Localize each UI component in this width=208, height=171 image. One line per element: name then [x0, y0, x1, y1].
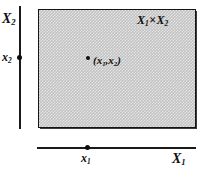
product-set-label: X1×X2	[137, 14, 168, 26]
product-label-first-subscript: 1	[145, 19, 149, 28]
vertical-axis-tick-label: x2	[2, 51, 12, 63]
horizontal-axis-point-marker	[85, 145, 90, 150]
vertical-axis-label: X2	[2, 12, 16, 26]
vertical-axis-name: X	[2, 11, 11, 26]
product-set-region	[38, 9, 196, 128]
product-label-second-subscript: 2	[165, 19, 169, 28]
horizontal-axis-tick-label: x1	[81, 152, 91, 164]
horizontal-axis-name: X	[172, 151, 181, 166]
vertical-axis-point-marker	[17, 55, 22, 60]
vertical-axis-line	[19, 6, 21, 129]
multiplication-icon: ×	[149, 13, 157, 27]
horizontal-axis-subscript: 1	[181, 157, 185, 167]
pair-first-subscript: 1	[102, 60, 105, 67]
product-label-second-set: X	[157, 13, 165, 27]
ordered-pair-point-marker	[86, 56, 90, 60]
horizontal-axis-line	[37, 147, 196, 149]
cartesian-product-figure: X1×X2 X2 x2 X1 x1 (x1,x2)	[0, 0, 208, 171]
horizontal-tick-subscript: 1	[87, 157, 91, 166]
ordered-pair-label: (x1,x2)	[93, 55, 121, 66]
pair-close-paren: )	[117, 54, 121, 66]
product-label-first-set: X	[137, 13, 145, 27]
vertical-tick-subscript: 2	[8, 56, 12, 65]
pair-second-subscript: 2	[114, 60, 117, 67]
pair-second-component: x	[108, 54, 114, 66]
vertical-axis-subscript: 2	[11, 17, 15, 27]
horizontal-axis-label: X1	[172, 152, 186, 166]
